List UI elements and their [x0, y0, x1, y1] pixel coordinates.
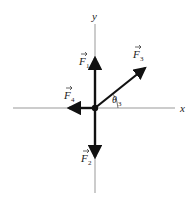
force-diagram: x y F 1 F 2 F 3 F 4 θ 3 — [0, 0, 193, 202]
svg-text:2: 2 — [88, 159, 92, 167]
svg-text:F: F — [78, 55, 86, 67]
label-f3: F 3 — [132, 45, 144, 63]
x-axis-label: x — [179, 102, 185, 114]
svg-text:3: 3 — [118, 100, 122, 108]
label-f2: F 2 — [80, 149, 92, 167]
svg-text:θ: θ — [112, 94, 117, 105]
origin-point — [92, 105, 98, 111]
svg-text:F: F — [63, 89, 71, 101]
svg-text:3: 3 — [140, 55, 144, 63]
svg-text:F: F — [80, 152, 88, 164]
y-axis-label: y — [91, 10, 97, 22]
svg-text:F: F — [132, 48, 140, 60]
label-f4: F 4 — [63, 86, 75, 104]
label-f1: F 1 — [78, 52, 90, 70]
svg-text:1: 1 — [86, 62, 90, 70]
svg-text:4: 4 — [71, 96, 75, 104]
